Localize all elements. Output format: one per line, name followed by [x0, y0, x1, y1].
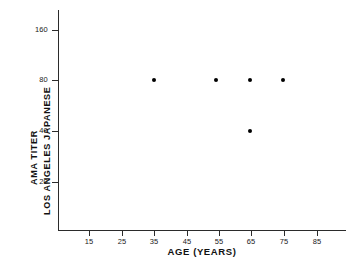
y-axis-line — [58, 10, 59, 231]
x-tick-label: 35 — [141, 238, 167, 246]
x-axis-title: AGE (YEARS) — [58, 246, 346, 257]
y-tick-mark — [52, 30, 58, 31]
x-axis-line — [58, 230, 346, 231]
x-tick-mark — [89, 231, 90, 236]
data-point — [152, 78, 156, 82]
data-point — [248, 129, 252, 133]
x-tick-mark — [284, 231, 285, 236]
data-point — [214, 78, 218, 82]
x-tick-mark — [251, 231, 252, 236]
data-point — [281, 78, 285, 82]
x-tick-label: 15 — [76, 238, 102, 246]
x-tick-label: 85 — [304, 238, 330, 246]
y-tick-mark — [52, 182, 58, 183]
y-tick-mark — [52, 80, 58, 81]
y-axis-title-line-1: AMA TITER — [29, 130, 39, 185]
x-tick-label: 25 — [109, 238, 135, 246]
data-point — [248, 78, 252, 82]
x-tick-mark — [154, 231, 155, 236]
x-tick-mark — [122, 231, 123, 236]
x-tick-label: 65 — [238, 238, 264, 246]
x-tick-label: 55 — [206, 238, 232, 246]
x-tick-mark — [219, 231, 220, 236]
y-axis-title-line-2: LOS ANGELES JAPANESE — [42, 86, 52, 215]
x-tick-mark — [317, 231, 318, 236]
x-tick-label: 75 — [271, 238, 297, 246]
y-axis-title: AMA TITER LOS ANGELES JAPANESE — [0, 0, 50, 231]
x-tick-mark — [187, 231, 188, 236]
scatter-plot-figure: 160804020 1525354555657585 AMA TITER LOS… — [0, 0, 357, 259]
x-tick-label: 45 — [174, 238, 200, 246]
y-tick-mark — [52, 131, 58, 132]
